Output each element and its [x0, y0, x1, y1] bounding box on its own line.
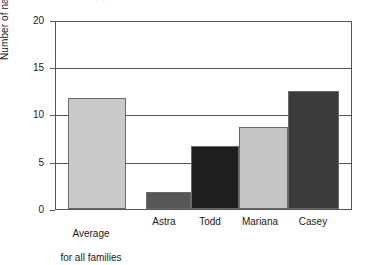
y-tick-label-15: 15: [20, 63, 44, 73]
scan-artifact-strip: · · ·: [0, 0, 369, 7]
y-tick-label-20: 20: [20, 16, 44, 26]
bar-astra: [146, 192, 191, 209]
bar-todd: [191, 146, 239, 209]
x-label-casey: Casey: [288, 216, 338, 228]
x-label-astra: Astra: [142, 216, 186, 228]
bar-mariana: [239, 127, 288, 209]
y-tick-label-10: 10: [20, 110, 44, 120]
bar-average: [68, 98, 126, 209]
x-label-average-line2: for all families: [42, 252, 140, 264]
y-tick-mark-0: [50, 210, 55, 211]
x-label-mariana: Mariana: [232, 216, 288, 228]
y-axis-title: Number of narratives: [0, 0, 10, 60]
x-label-average-line1: Average: [42, 228, 140, 240]
x-label-average: Average for all families: [42, 216, 140, 265]
y-tick-label-5: 5: [20, 158, 44, 168]
x-label-todd: Todd: [188, 216, 232, 228]
gridline-15: [56, 68, 351, 69]
y-tick-label-0: 0: [20, 205, 44, 215]
plot-area: [55, 21, 352, 210]
scan-artifact-text: · · ·: [95, 0, 111, 5]
bar-casey: [288, 91, 339, 209]
